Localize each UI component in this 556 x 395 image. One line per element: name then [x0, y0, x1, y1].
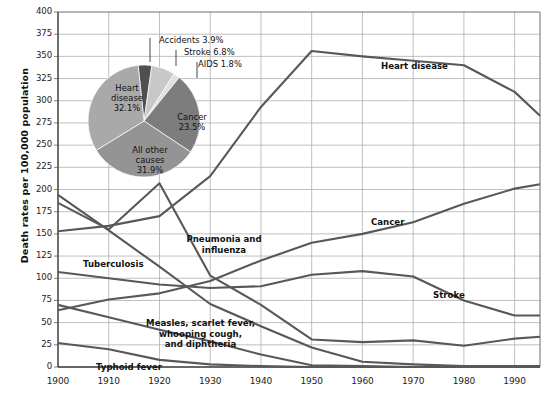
pie-heart-line2: disease	[111, 93, 143, 103]
pie-other-line3: 31.9%	[137, 165, 164, 175]
series-label-typhoid-fever: Typhoid fever	[96, 362, 162, 373]
series-label-measles-line3: and diphtheria	[165, 339, 236, 349]
series-label-pneumonia-influenza: Pneumonia and influenza	[172, 234, 276, 255]
series-line-2	[58, 271, 540, 315]
pie-slice-label-all-other-causes: All other causes 31.9%	[123, 145, 177, 175]
series-label-measles-line2: whooping cough,	[159, 329, 242, 339]
series-label-pneumonia-line1: Pneumonia and	[186, 234, 261, 244]
pie-callout-accidents: Accidents 3.9%	[159, 35, 223, 45]
pie-heart-line1: Heart	[115, 83, 138, 93]
gridlines	[54, 12, 540, 367]
series-label-stroke: Stroke	[433, 290, 465, 301]
series-label-pneumonia-line2: influenza	[202, 245, 246, 255]
series-label-cancer: Cancer	[371, 217, 404, 228]
pie-callout-stroke: Stroke 6.8%	[184, 47, 235, 57]
pie-other-line1: All other	[132, 145, 167, 155]
pie-callout-aids: AIDS 1.8%	[198, 59, 242, 69]
pie-cancer-line1: Cancer	[177, 112, 207, 122]
pie-slice-label-heart-disease: Heart disease 32.1%	[100, 83, 154, 113]
series-label-tuberculosis: Tuberculosis	[83, 259, 144, 270]
figure-root: Death rates per 100,000 population 40037…	[0, 0, 556, 395]
pie-heart-line3: 32.1%	[114, 103, 141, 113]
series-label-heart-disease: Heart disease	[381, 61, 448, 72]
series-label-measles-group: Measles, scarlet fever, whooping cough, …	[118, 318, 283, 350]
pie-other-line2: causes	[136, 155, 165, 165]
series-line-1	[58, 184, 540, 310]
pie-cancer-line2: 23.5%	[179, 122, 206, 132]
series-label-measles-line1: Measles, scarlet fever,	[146, 318, 255, 328]
pie-slice-label-cancer: Cancer 23.5%	[168, 112, 216, 132]
